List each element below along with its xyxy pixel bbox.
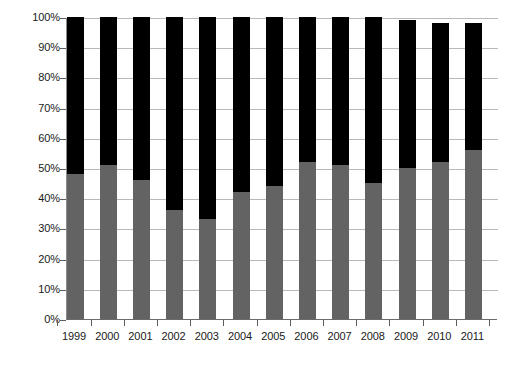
x-tick-mark: [91, 320, 92, 326]
bar-segment-lower-2004: [233, 192, 250, 319]
bar-group-2007: [332, 17, 349, 319]
bar-group-2011: [465, 17, 482, 319]
y-tick-mark: [60, 78, 66, 79]
x-tick-mark: [456, 320, 457, 326]
bar-segment-lower-2008: [365, 183, 382, 319]
y-tick-label: 100%: [16, 12, 60, 23]
bar-group-2000: [100, 17, 117, 319]
y-tick-mark: [60, 260, 66, 261]
stacked-bar-chart: 100%90%80%70%60%50%40%30%20%10%0% 199920…: [0, 0, 525, 368]
y-tick-label: 20%: [16, 254, 60, 265]
bar-segment-upper-2004: [233, 17, 250, 192]
y-tick-mark: [60, 169, 66, 170]
bar-segment-upper-2001: [133, 17, 150, 180]
y-tick-label: 0%: [16, 314, 60, 325]
y-tick-mark: [60, 109, 66, 110]
y-tick-mark: [60, 320, 66, 321]
bar-segment-lower-2009: [399, 168, 416, 319]
bar-segment-lower-2011: [465, 150, 482, 319]
bar-segment-lower-1999: [67, 174, 84, 319]
y-tick-label: 10%: [16, 284, 60, 295]
bar-group-2001: [133, 17, 150, 319]
bar-segment-upper-2005: [266, 17, 283, 186]
y-tick-mark: [60, 199, 66, 200]
x-tick-mark: [356, 320, 357, 326]
y-tick-label: 60%: [16, 133, 60, 144]
bar-segment-upper-2003: [199, 17, 216, 219]
bar-segment-upper-1999: [67, 17, 84, 174]
y-tick-label: 80%: [16, 72, 60, 83]
x-tick-mark: [389, 320, 390, 326]
bar-group-2008: [365, 17, 382, 319]
bar-group-2010: [432, 17, 449, 319]
bar-segment-lower-2005: [266, 186, 283, 319]
bar-segment-upper-2010: [432, 23, 449, 162]
y-tick-mark: [60, 18, 66, 19]
bar-group-2009: [399, 17, 416, 319]
bar-segment-lower-2006: [299, 162, 316, 319]
bar-group-2006: [299, 17, 316, 319]
bar-segment-lower-2001: [133, 180, 150, 319]
y-tick-label: 40%: [16, 193, 60, 204]
plot-area: [66, 18, 497, 320]
x-tick-mark: [257, 320, 258, 326]
bar-segment-upper-2000: [100, 17, 117, 165]
bar-group-2004: [233, 17, 250, 319]
bar-group-2003: [199, 17, 216, 319]
x-tick-mark: [223, 320, 224, 326]
bar-group-2005: [266, 17, 283, 319]
y-tick-mark: [60, 229, 66, 230]
bar-segment-lower-2002: [166, 210, 183, 319]
y-tick-mark: [60, 139, 66, 140]
bar-segment-upper-2011: [465, 23, 482, 150]
y-axis-labels: 100%90%80%70%60%50%40%30%20%10%0%: [8, 0, 60, 368]
bar-segment-upper-2002: [166, 17, 183, 210]
x-tick-mark: [157, 320, 158, 326]
bar-segment-upper-2008: [365, 17, 382, 183]
bar-segment-upper-2009: [399, 20, 416, 168]
y-tick-mark: [60, 48, 66, 49]
bar-segment-lower-2007: [332, 165, 349, 319]
y-tick-label: 70%: [16, 103, 60, 114]
x-tick-mark: [489, 320, 490, 326]
bar-group-1999: [67, 17, 84, 319]
bar-segment-lower-2003: [199, 219, 216, 319]
y-tick-mark: [60, 290, 66, 291]
x-tick-mark: [124, 320, 125, 326]
x-tick-label-2011: 2011: [451, 330, 493, 342]
bar-segment-lower-2000: [100, 165, 117, 319]
x-tick-mark: [190, 320, 191, 326]
y-tick-label: 30%: [16, 223, 60, 234]
bar-segment-lower-2010: [432, 162, 449, 319]
bar-group-2002: [166, 17, 183, 319]
x-tick-mark: [423, 320, 424, 326]
x-tick-mark: [323, 320, 324, 326]
x-tick-mark: [57, 320, 58, 326]
bar-segment-upper-2006: [299, 17, 316, 162]
y-tick-label: 90%: [16, 42, 60, 53]
bar-segment-upper-2007: [332, 17, 349, 165]
x-tick-mark: [290, 320, 291, 326]
y-tick-label: 50%: [16, 163, 60, 174]
